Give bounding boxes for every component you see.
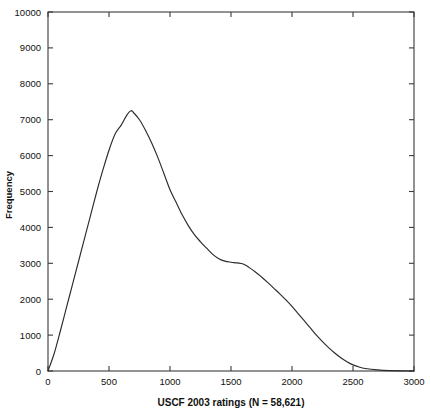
y-tick-label: 5000 xyxy=(20,186,41,197)
x-tick-label: 2500 xyxy=(342,376,363,387)
y-tick-label: 9000 xyxy=(20,42,41,53)
y-tick-label: 6000 xyxy=(20,150,41,161)
y-tick-label: 2000 xyxy=(20,294,41,305)
figure-background xyxy=(0,0,431,414)
x-axis-label: USCF 2003 ratings (N = 58,621) xyxy=(157,397,304,408)
y-tick-label: 1000 xyxy=(20,330,41,341)
y-tick-label: 4000 xyxy=(20,222,41,233)
x-tick-label: 0 xyxy=(45,376,50,387)
x-tick-label: 3000 xyxy=(403,376,424,387)
x-tick-label: 500 xyxy=(101,376,117,387)
y-tick-label: 0 xyxy=(36,366,41,377)
x-tick-label: 2000 xyxy=(281,376,302,387)
x-tick-label: 1000 xyxy=(159,376,180,387)
y-tick-label: 8000 xyxy=(20,78,41,89)
chart-figure: 050010001500200025003000 010002000300040… xyxy=(0,0,431,414)
y-tick-label: 3000 xyxy=(20,258,41,269)
y-tick-label: 10000 xyxy=(15,7,41,18)
y-tick-label: 7000 xyxy=(20,114,41,125)
y-axis-label: Frequency xyxy=(3,170,14,219)
x-tick-label: 1500 xyxy=(220,376,241,387)
